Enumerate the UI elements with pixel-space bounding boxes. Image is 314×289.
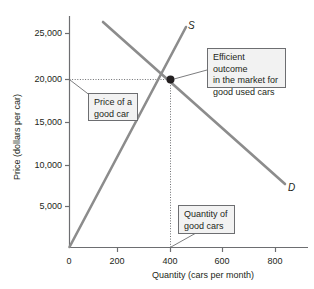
x-tick-label-800: 800 [261,256,289,266]
supply-curve-label: S [188,20,195,31]
equilibrium-callout-leader [174,70,207,79]
x-tick-label-200: 200 [103,256,131,266]
chart-canvas [0,0,314,289]
chart-figure: 25,000 20,000 15,000 10,000 5,000 0 200 … [0,0,314,289]
x-tick-label-600: 600 [208,256,236,266]
equilibrium-callout: Efficient outcome in the market for good… [207,48,286,88]
demand-curve-label: D [288,182,295,193]
x-tick-label-0: 0 [55,256,83,266]
x-axis-title: Quantity (cars per month) [152,270,254,280]
y-tick-label-20000: 20,000 [8,74,62,84]
y-tick-label-5000: 5,000 [8,201,62,211]
equilibrium-point [167,76,175,84]
y-axis-title: Price (dollars per car) [12,94,22,180]
quantity-callout-leader [171,233,196,247]
price-callout: Price of a good car [88,93,138,121]
quantity-callout: Quantity of good cars [178,205,235,234]
supply-curve [70,27,187,247]
y-tick-label-25000: 25,000 [8,28,62,38]
x-tick-label-400: 400 [156,256,184,266]
